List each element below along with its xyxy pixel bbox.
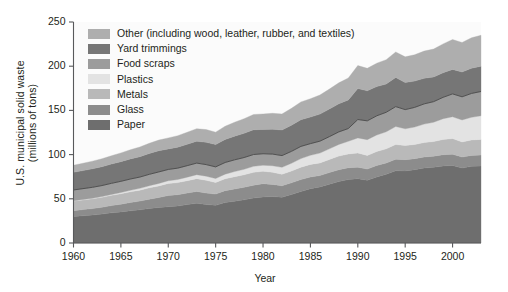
y-axis-tick-label: 150	[28, 103, 66, 115]
legend-item-label: Other (including wood, leather, rubber, …	[117, 28, 355, 39]
x-axis-tick-label: 1995	[380, 250, 430, 262]
legend-item: Other (including wood, leather, rubber, …	[88, 26, 355, 41]
x-axis-tick-label: 1985	[285, 250, 335, 262]
legend-item: Yard trimmings	[88, 41, 355, 56]
legend-item-label: Paper	[117, 119, 145, 130]
legend-swatch-icon	[88, 29, 110, 39]
legend-item-label: Food scraps	[117, 58, 175, 69]
y-axis-tick-label: 0	[28, 236, 66, 248]
x-axis-tick-label: 2000	[428, 250, 478, 262]
x-axis-title: Year	[205, 272, 325, 284]
legend-item: Food scraps	[88, 56, 355, 71]
chart-figure: U.S. municipal solid waste (millions of …	[0, 0, 508, 292]
legend-item-label: Yard trimmings	[117, 43, 187, 54]
x-axis-tick-label: 1960	[49, 250, 99, 262]
x-axis-tick-label: 1980	[238, 250, 288, 262]
x-axis-tick-label: 1970	[143, 250, 193, 262]
legend-item-label: Glass	[117, 104, 144, 115]
y-axis-tick-label: 250	[28, 15, 66, 27]
legend-item: Glass	[88, 102, 355, 117]
legend-swatch-icon	[88, 44, 110, 54]
legend-swatch-icon	[88, 89, 110, 99]
legend-swatch-icon	[88, 74, 110, 84]
x-axis-tick-label: 1975	[191, 250, 241, 262]
y-axis-tick-label: 100	[28, 148, 66, 160]
x-axis-tick-label: 1965	[96, 250, 146, 262]
legend-swatch-icon	[88, 105, 110, 115]
legend-item: Paper	[88, 117, 355, 132]
y-axis-tick-label: 50	[28, 192, 66, 204]
legend-item: Metals	[88, 87, 355, 102]
legend-swatch-icon	[88, 120, 110, 130]
x-axis-tick-label: 1990	[333, 250, 383, 262]
legend-swatch-icon	[88, 59, 110, 69]
legend-item: Plastics	[88, 72, 355, 87]
chart-legend: Other (including wood, leather, rubber, …	[88, 26, 355, 132]
legend-item-label: Plastics	[117, 74, 153, 85]
y-axis-tick-label: 200	[28, 59, 66, 71]
legend-item-label: Metals	[117, 89, 148, 100]
y-axis-title-line-1: U.S. municipal solid waste	[14, 8, 26, 238]
